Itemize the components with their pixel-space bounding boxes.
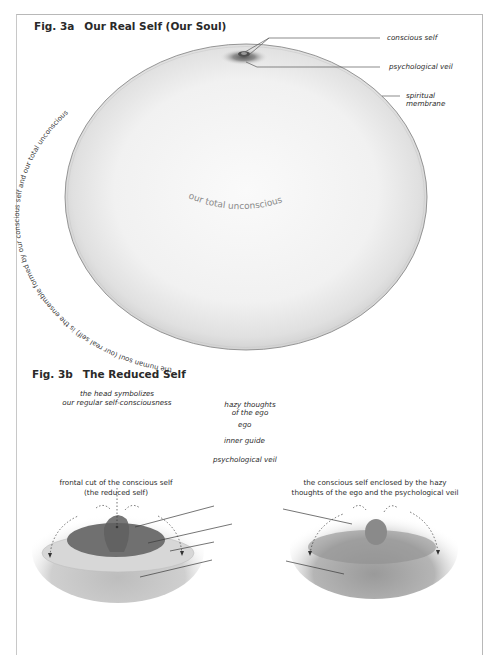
caption-left-1: frontal cut of the conscious self [40,478,192,488]
label-ego: ego [238,421,251,429]
conscious-self-enclosed [290,499,458,599]
fig-3b-number: Fig. 3b [32,368,73,380]
caption-right: the conscious self enclosed by the hazy … [275,478,475,497]
conscious-self-spot [220,49,268,65]
caption-right-2: thoughts of the ego and the psychologica… [275,488,475,498]
label-psychological-veil: psychological veil [389,63,453,71]
soul-sphere [65,44,427,350]
fig-3b-heading: The Reduced Self [83,368,186,380]
label-psychological-veil-3b: psychological veil [213,456,277,464]
head-note-2: our regular self-consciousness [56,399,178,407]
reduced-self-frontal-cut [32,488,204,603]
caption-right-1: the conscious self enclosed by the hazy [275,478,475,488]
caption-left: frontal cut of the conscious self (the r… [40,478,192,497]
label-conscious-self: conscious self [387,34,437,42]
caption-left-2: (the reduced self) [40,488,192,498]
label-hazy-thoughts-2: of the ego [220,409,280,417]
head-note-1: the head symbolizes [77,390,157,398]
label-inner-guide: inner guide [224,437,265,445]
label-spiritual-membrane-2: membrane [406,100,445,108]
fig-3b-title: Fig. 3bThe Reduced Self [32,368,186,380]
